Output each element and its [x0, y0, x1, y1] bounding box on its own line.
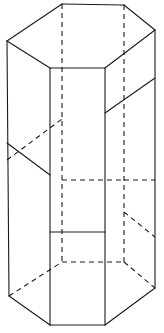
diagram-background [0, 0, 164, 333]
hexagonal-prism-diagram [0, 0, 164, 333]
figure-container: Wireframe line drawing of a tall hexagon… [0, 0, 164, 333]
